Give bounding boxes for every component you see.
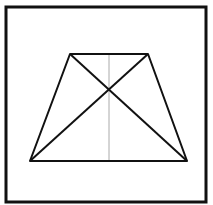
trapezoid-diagram <box>0 0 213 205</box>
frame-border <box>6 7 206 202</box>
